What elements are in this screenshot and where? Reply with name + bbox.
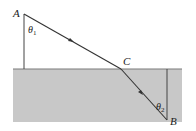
point-b-label: B: [170, 115, 177, 127]
point-a-label: A: [12, 7, 20, 19]
point-c-label: C: [123, 55, 131, 67]
refraction-diagram: A C B θ1 θ2: [0, 0, 196, 131]
lower-medium: [13, 69, 182, 122]
arrow-icon-incident: [68, 38, 74, 42]
theta1-label: θ1: [28, 24, 37, 37]
